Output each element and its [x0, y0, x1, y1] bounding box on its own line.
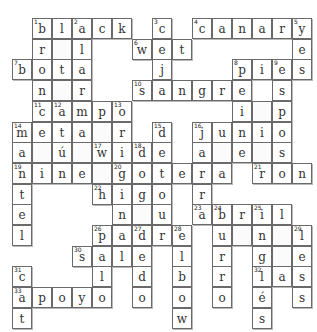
crossword-cell[interactable]: r: [272, 18, 292, 39]
crossword-cell[interactable]: j: [152, 59, 172, 80]
crossword-cell[interactable]: r: [212, 246, 232, 267]
crossword-cell[interactable]: u: [152, 204, 172, 225]
crossword-cell[interactable]: 18d: [132, 142, 152, 163]
crossword-cell[interactable]: a: [252, 18, 272, 39]
crossword-cell[interactable]: 23a: [192, 204, 212, 225]
crossword-cell[interactable]: s: [292, 266, 312, 287]
crossword-cell[interactable]: l: [52, 18, 72, 39]
crossword-cell[interactable]: r: [152, 225, 172, 246]
crossword-cell[interactable]: e: [32, 122, 52, 143]
crossword-cell[interactable]: r: [112, 122, 132, 143]
crossword-cell[interactable]: e: [132, 246, 152, 267]
crossword-cell[interactable]: e: [152, 39, 172, 60]
crossword-cell[interactable]: o: [212, 287, 232, 308]
crossword-cell[interactable]: 14m: [12, 122, 32, 143]
crossword-cell[interactable]: [92, 122, 112, 143]
crossword-cell[interactable]: 11c: [32, 101, 52, 122]
crossword-cell[interactable]: 12a: [52, 101, 72, 122]
crossword-cell[interactable]: a: [212, 163, 232, 184]
crossword-cell[interactable]: t: [52, 59, 72, 80]
crossword-cell[interactable]: a: [12, 142, 32, 163]
crossword-cell[interactable]: y: [72, 287, 92, 308]
crossword-cell[interactable]: 7b: [12, 59, 32, 80]
crossword-cell[interactable]: n: [32, 80, 52, 101]
crossword-cell[interactable]: m: [72, 101, 92, 122]
crossword-cell[interactable]: 20g: [112, 163, 132, 184]
crossword-cell[interactable]: a: [192, 142, 212, 163]
crossword-cell[interactable]: p: [272, 101, 292, 122]
crossword-cell[interactable]: w: [172, 308, 192, 329]
crossword-cell[interactable]: 13o: [112, 101, 132, 122]
crossword-cell[interactable]: [32, 142, 52, 163]
crossword-cell[interactable]: 2a: [72, 18, 92, 39]
crossword-cell[interactable]: l: [112, 246, 132, 267]
crossword-cell[interactable]: r: [72, 80, 92, 101]
crossword-cell[interactable]: o: [92, 287, 112, 308]
crossword-cell[interactable]: [272, 246, 292, 267]
crossword-cell[interactable]: [252, 101, 272, 122]
crossword-cell[interactable]: r: [192, 184, 212, 205]
crossword-cell[interactable]: t: [172, 39, 192, 60]
crossword-cell[interactable]: i: [32, 163, 52, 184]
crossword-cell[interactable]: t: [52, 122, 72, 143]
crossword-cell[interactable]: 8p: [232, 59, 252, 80]
crossword-cell[interactable]: 3c: [152, 18, 172, 39]
crossword-cell[interactable]: o: [132, 163, 152, 184]
crossword-cell[interactable]: s: [292, 59, 312, 80]
crossword-cell[interactable]: n: [292, 163, 312, 184]
crossword-cell[interactable]: r: [232, 204, 252, 225]
crossword-cell[interactable]: [272, 225, 292, 246]
crossword-cell[interactable]: 33a: [12, 287, 32, 308]
crossword-cell[interactable]: 17w: [92, 142, 112, 163]
crossword-cell[interactable]: o: [152, 184, 172, 205]
crossword-cell[interactable]: 21r: [252, 163, 272, 184]
crossword-cell[interactable]: 1b: [32, 18, 52, 39]
crossword-cell[interactable]: 24b: [212, 204, 232, 225]
crossword-cell[interactable]: 6w: [132, 39, 152, 60]
crossword-cell[interactable]: 26p: [92, 225, 112, 246]
crossword-cell[interactable]: [132, 204, 152, 225]
crossword-cell[interactable]: e: [172, 163, 192, 184]
crossword-cell[interactable]: r: [192, 163, 212, 184]
crossword-cell[interactable]: 31c: [12, 266, 32, 287]
crossword-cell[interactable]: a: [212, 18, 232, 39]
crossword-cell[interactable]: e: [232, 142, 252, 163]
crossword-cell[interactable]: [212, 142, 232, 163]
crossword-cell[interactable]: o: [172, 287, 192, 308]
crossword-cell[interactable]: k: [112, 18, 132, 39]
crossword-cell[interactable]: [252, 142, 272, 163]
crossword-cell[interactable]: 30s: [72, 246, 92, 267]
crossword-cell[interactable]: 25i: [252, 204, 272, 225]
crossword-cell[interactable]: i: [252, 59, 272, 80]
crossword-cell[interactable]: ú: [52, 142, 72, 163]
crossword-cell[interactable]: [232, 225, 252, 246]
crossword-cell[interactable]: e: [152, 142, 172, 163]
crossword-cell[interactable]: 22h: [92, 184, 112, 205]
crossword-cell[interactable]: p: [92, 101, 112, 122]
crossword-cell[interactable]: n: [112, 204, 132, 225]
crossword-cell[interactable]: g: [252, 246, 272, 267]
crossword-cell[interactable]: [52, 39, 72, 60]
crossword-cell[interactable]: l: [172, 246, 192, 267]
crossword-cell[interactable]: r: [212, 80, 232, 101]
crossword-cell[interactable]: 29l: [292, 225, 312, 246]
crossword-cell[interactable]: g: [132, 184, 152, 205]
crossword-cell[interactable]: e: [12, 204, 32, 225]
crossword-cell[interactable]: s: [272, 80, 292, 101]
crossword-cell[interactable]: o: [32, 59, 52, 80]
crossword-cell[interactable]: u: [212, 225, 232, 246]
crossword-cell[interactable]: 32l: [252, 266, 272, 287]
crossword-cell[interactable]: é: [252, 287, 272, 308]
crossword-cell[interactable]: [72, 142, 92, 163]
crossword-cell[interactable]: n: [252, 225, 272, 246]
crossword-cell[interactable]: s: [292, 287, 312, 308]
crossword-cell[interactable]: 5y: [292, 18, 312, 39]
crossword-cell[interactable]: l: [12, 225, 32, 246]
crossword-cell[interactable]: i: [112, 184, 132, 205]
crossword-cell[interactable]: l: [72, 39, 92, 60]
crossword-cell[interactable]: a: [112, 225, 132, 246]
crossword-cell[interactable]: s: [252, 308, 272, 329]
crossword-cell[interactable]: 16j: [192, 122, 212, 143]
crossword-cell[interactable]: 10s: [132, 80, 152, 101]
crossword-cell[interactable]: 9e: [272, 59, 292, 80]
